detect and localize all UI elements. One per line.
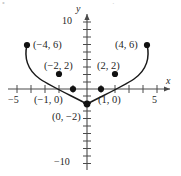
y-tick-label-neg10: −10 [54,157,70,167]
point-label-neg4-6: (−4, 6) [33,40,62,51]
data-point [98,86,104,92]
coordinate-plane [0,0,181,176]
data-point [24,42,30,48]
x-axis-label: x [166,76,170,86]
point-label-0-neg2: (0, −2) [52,112,81,123]
y-axis [83,14,91,170]
y-tick-label-10: 10 [62,16,72,26]
data-point [56,71,62,77]
graph-figure: • · [0,0,181,176]
data-point [144,42,150,48]
data-point [112,71,118,77]
point-label-2-2: (2, 2) [97,61,120,72]
data-point [70,86,76,92]
x-tick-label-neg5: −5 [8,95,19,105]
point-label-4-6: (4, 6) [115,40,138,51]
point-label-1-0: (1, 0) [98,95,121,106]
x-axis [8,85,170,93]
data-point [84,101,91,108]
x-tick-label-5: 5 [152,95,157,105]
y-axis-label: y [76,4,80,14]
point-label-neg1-0: (−1, 0) [34,95,63,106]
point-label-neg2-2: (−2, 2) [44,61,73,72]
